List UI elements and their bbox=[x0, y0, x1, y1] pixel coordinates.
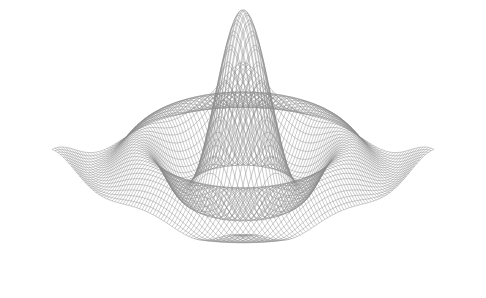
sinc-surface-wireframe-plot bbox=[0, 0, 486, 298]
wireframe-mesh bbox=[52, 10, 434, 243]
